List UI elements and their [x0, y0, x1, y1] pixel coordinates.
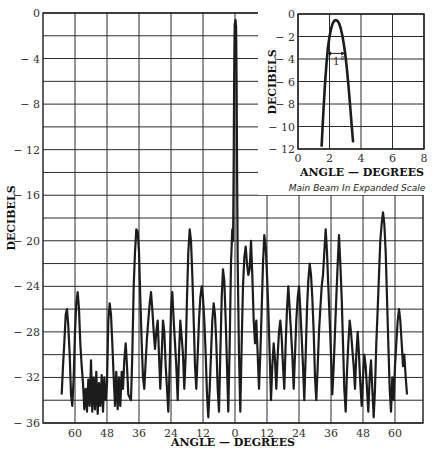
inset-y-tick-label: − 12 — [268, 143, 295, 156]
inset-y-tick-label: − 10 — [268, 121, 295, 134]
x-tick-label: 36 — [132, 427, 146, 440]
inset-y-axis-title: DECIBELS — [266, 49, 279, 114]
inset-x-tick-label: 6 — [389, 152, 396, 165]
inset-x-tick-label: 0 — [295, 152, 302, 165]
inset-caption: Main Beam In Expanded Scale — [289, 183, 426, 193]
y-tick-label: − 24 — [13, 280, 40, 293]
y-tick-label: 0 — [33, 7, 40, 20]
main-y-axis-title: DECIBELS — [5, 185, 18, 250]
inset-x-tick-label: 8 — [421, 152, 428, 165]
antenna-pattern-chart: 0− 4− 8− 12− 16− 20− 24− 28− 32− 3660483… — [0, 0, 439, 461]
main-x-axis-title: ANGLE — DEGREES — [170, 436, 295, 449]
x-tick-label: 60 — [68, 427, 82, 440]
y-tick-label: − 12 — [13, 144, 40, 157]
y-tick-label: − 28 — [13, 326, 40, 339]
y-tick-label: − 36 — [13, 417, 40, 430]
x-tick-label: 48 — [100, 427, 114, 440]
x-tick-label: 60 — [388, 427, 402, 440]
inset-y-tick-label: 0 — [288, 8, 295, 21]
inset-x-tick-label: 4 — [358, 152, 365, 165]
y-tick-label: − 32 — [13, 371, 40, 384]
x-tick-label: 36 — [324, 427, 338, 440]
beamwidth-annotation: 1° — [333, 55, 346, 68]
inset-x-tick-label: 2 — [326, 152, 333, 165]
inset-x-axis-title: ANGLE — DEGREES — [299, 166, 424, 179]
y-tick-label: − 8 — [20, 98, 40, 111]
inset-y-tick-label: − 2 — [275, 31, 295, 44]
y-tick-label: − 4 — [20, 53, 40, 66]
x-tick-label: 48 — [356, 427, 370, 440]
